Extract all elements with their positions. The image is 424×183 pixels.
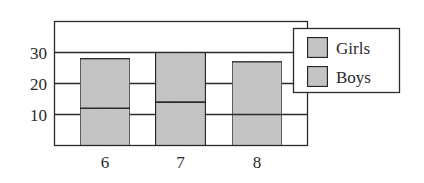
y-tick-label: 20 bbox=[30, 75, 47, 94]
legend-swatch-girls bbox=[308, 38, 328, 58]
bar-stack bbox=[232, 62, 282, 146]
bar-stack bbox=[80, 59, 130, 146]
bar-group-6 bbox=[80, 59, 130, 146]
x-tick-label: 8 bbox=[253, 153, 262, 172]
bar-stack bbox=[156, 53, 206, 146]
y-tick-label: 30 bbox=[30, 44, 47, 63]
bar-group-7 bbox=[156, 53, 206, 146]
y-tick-label: 10 bbox=[30, 106, 47, 125]
x-axis-ticks: 678 bbox=[101, 153, 262, 172]
legend: Girls Boys bbox=[294, 29, 400, 93]
bars bbox=[80, 53, 282, 146]
legend-swatch-boys bbox=[308, 67, 328, 87]
y-axis-ticks: 102030 bbox=[30, 44, 47, 125]
x-tick-label: 7 bbox=[176, 153, 185, 172]
legend-label-girls: Girls bbox=[336, 39, 370, 58]
bar-group-8 bbox=[232, 62, 282, 146]
stacked-bar-chart: 102030 678 Girls Boys bbox=[0, 0, 424, 183]
legend-label-boys: Boys bbox=[336, 68, 371, 87]
x-tick-label: 6 bbox=[101, 153, 110, 172]
